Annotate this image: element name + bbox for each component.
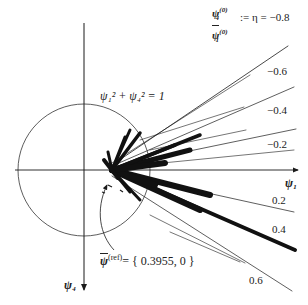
ray-label: −0.6	[267, 65, 287, 77]
ray-label: 0.2	[272, 194, 286, 206]
eta-fraction: ψ(0)4 ψ(0)1	[212, 4, 219, 46]
eta-denominator: ψ(0)1	[212, 26, 219, 46]
reference-vector-label: ψ(ref)= { 0.3955, 0 }	[100, 253, 195, 269]
eta-definition: := η = −0.8	[240, 11, 289, 23]
ray-label: −0.2	[267, 138, 287, 150]
psi-vector-symbol: ψ	[100, 254, 108, 268]
ray-label: 0.4	[272, 223, 286, 235]
ray-label: −0.4	[267, 104, 287, 116]
circle-equation: ψ₁² + ψ₄² = 1	[100, 89, 165, 104]
psi1-axis-label: ψ₁	[285, 176, 297, 191]
psi4-axis-label: ψ₄	[64, 278, 76, 293]
eta-numerator: ψ(0)4	[212, 4, 219, 26]
reference-arrow	[100, 185, 114, 250]
ray-label: 0.6	[249, 274, 263, 286]
